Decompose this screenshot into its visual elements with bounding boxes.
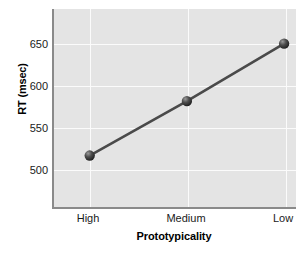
- y-tick-label: 500: [14, 165, 48, 176]
- data-point-marker: [182, 96, 192, 106]
- x-tick-label: High: [77, 212, 100, 225]
- y-tick-label: 550: [14, 123, 48, 134]
- data-point-marker: [279, 39, 289, 49]
- x-axis-tick-labels: High Medium Low: [0, 212, 308, 228]
- data-point-marker: [85, 150, 95, 160]
- x-axis-title: Prototypicality: [52, 230, 296, 242]
- y-tick-label: 650: [14, 39, 48, 50]
- y-tick-label: 600: [14, 81, 48, 92]
- chart-figure: RT (msec) 650 600 550 500: [0, 0, 308, 253]
- x-tick-label: Low: [273, 212, 293, 225]
- plot-area: [52, 9, 296, 209]
- data-series-line: [54, 9, 296, 207]
- x-tick-label: Medium: [166, 212, 205, 225]
